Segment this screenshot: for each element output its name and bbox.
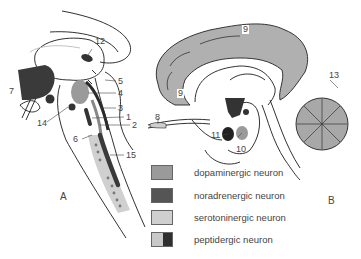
- panel-label-a: A: [60, 191, 67, 202]
- region-dark-b: [225, 98, 245, 118]
- region-1: [86, 110, 90, 124]
- label-9-top: 9: [242, 25, 249, 34]
- legend-label: dopaminergic neuron: [194, 167, 283, 178]
- label-13: 13: [329, 71, 339, 80]
- label-1: 1: [126, 113, 131, 122]
- label-6: 6: [73, 135, 78, 144]
- label-4: 4: [118, 89, 123, 98]
- legend-label: serotoninergic neuron: [194, 212, 286, 223]
- swatch-noradrenergic: [151, 188, 173, 203]
- label-3: 3: [118, 104, 123, 113]
- label-12: 12: [95, 37, 105, 46]
- label-10: 10: [236, 145, 246, 154]
- region-12: [80, 53, 94, 64]
- legend-item-peptidergic: peptidergic neuron: [151, 232, 351, 249]
- swatch-dopaminergic: [151, 165, 173, 180]
- region-dark-b2: [243, 109, 249, 115]
- label-9-bottom: 9: [177, 89, 184, 98]
- region-14: [46, 95, 55, 104]
- label-7: 7: [9, 87, 14, 96]
- swatch-serotoninergic: [151, 210, 173, 225]
- label-11: 11: [211, 131, 220, 140]
- legend-label: noradrenergic neuron: [194, 190, 285, 201]
- label-2: 2: [132, 121, 137, 130]
- legend-label: peptidergic neuron: [194, 234, 273, 245]
- region-13-cerebellum: [296, 98, 348, 150]
- legend-item-serotoninergic: serotoninergic neuron: [151, 210, 351, 227]
- serotoninergic-band: [88, 135, 130, 213]
- region-14b: [69, 104, 76, 111]
- legend-item-dopaminergic: dopaminergic neuron: [151, 165, 351, 182]
- label-14: 14: [37, 119, 47, 128]
- legend-item-noradrenergic: noradrenergic neuron: [151, 188, 351, 205]
- label-15: 15: [126, 151, 136, 160]
- label-5: 5: [118, 77, 123, 86]
- label-8: 8: [155, 113, 160, 122]
- swatch-peptidergic: [151, 232, 173, 247]
